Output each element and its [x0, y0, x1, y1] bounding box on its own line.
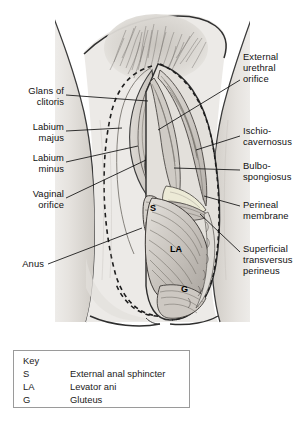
key-def-g: Gluteus — [70, 394, 102, 405]
label-anus: Anus — [2, 258, 44, 269]
label-superficial-transversus-perineus: Superficial transversus perineus — [243, 243, 307, 277]
label-glans-of-clitoris: Glans of clitoris — [2, 85, 64, 107]
label-perineal-membrane: Perineal membrane — [243, 199, 307, 221]
in-figure-label-g: G — [181, 284, 188, 294]
in-figure-label-s: S — [150, 203, 156, 213]
anatomical-figure: Glans of clitoris Labium majus Labium mi… — [0, 0, 308, 428]
body-drawing — [47, 0, 258, 326]
key-abbr-g: G — [23, 394, 30, 405]
key-def-la: Levator ani — [70, 381, 116, 392]
label-ischio-cavernosus: Ischio- cavernosus — [243, 125, 307, 147]
label-external-urethral-orifice: External urethral orifice — [243, 51, 307, 85]
label-bulbo-spongiosus: Bulbo- spongiosus — [243, 160, 307, 182]
key-def-s: External anal sphincter — [70, 368, 165, 379]
label-labium-minus: Labium minus — [2, 152, 64, 174]
label-labium-majus: Labium majus — [2, 121, 64, 143]
in-figure-label-la: LA — [170, 244, 182, 254]
key-abbr-la: LA — [23, 381, 34, 392]
key-abbr-s: S — [23, 368, 29, 379]
key-title: Key — [23, 355, 39, 366]
key-box: Key S External anal sphincter LA Levator… — [13, 350, 190, 408]
label-vaginal-orifice: Vaginal orifice — [2, 188, 64, 210]
